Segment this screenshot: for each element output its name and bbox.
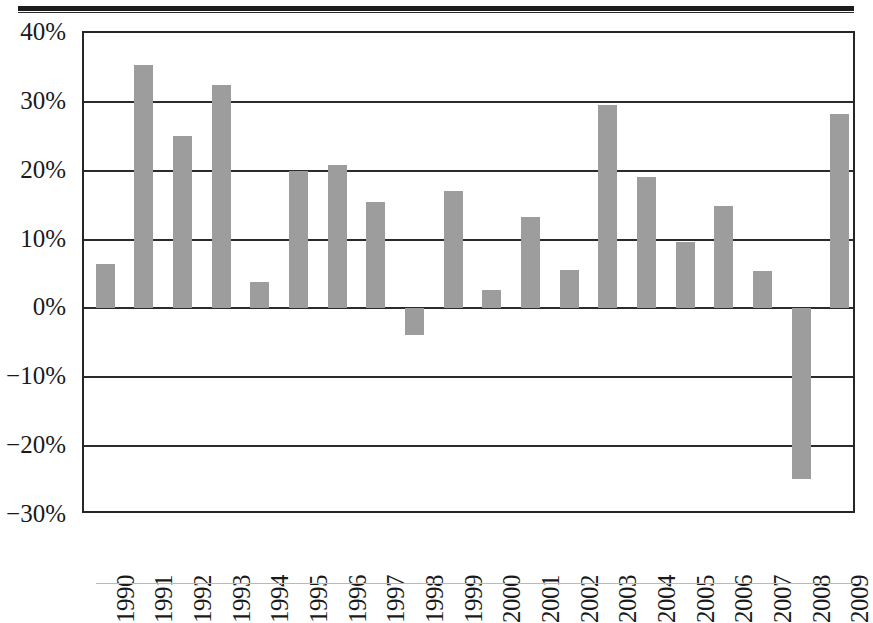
x-axis-tick-label: 1998: [422, 589, 447, 623]
bar: [830, 114, 849, 309]
bar: [637, 177, 656, 309]
bar: [560, 270, 579, 309]
x-axis-tick-label: 2007: [770, 589, 795, 623]
bar: [96, 264, 115, 308]
x-axis-tick-label: 2008: [809, 589, 834, 623]
x-axis-tick-label: 1993: [229, 589, 254, 623]
bar: [521, 217, 540, 309]
bar: [405, 308, 424, 334]
x-axis-tick-label: 2004: [654, 589, 679, 623]
x-axis-tick-label: 2009: [847, 589, 872, 623]
bar-series: [84, 33, 853, 511]
x-axis-tick-label: 1999: [461, 589, 486, 623]
x-axis-tick-label: 2003: [615, 589, 640, 623]
bar: [792, 308, 811, 479]
bar: [366, 202, 385, 309]
y-axis-tick-labels: 40%30%20%10%0%−10%−20%−30%: [0, 31, 74, 513]
bar: [134, 65, 153, 308]
x-axis-tick-label: 2005: [693, 589, 718, 623]
y-axis-tick-label: 40%: [20, 19, 66, 44]
x-axis-tick-label: 2002: [577, 589, 602, 623]
bar: [714, 206, 733, 309]
x-axis-tick-label: 2006: [731, 589, 756, 623]
bar: [289, 171, 308, 309]
bar: [212, 85, 231, 309]
bar: [753, 271, 772, 308]
x-axis-tick-label: 2000: [499, 589, 524, 623]
bar: [328, 165, 347, 309]
x-axis-tick-label: 1996: [345, 589, 370, 623]
page-top-rule: [18, 6, 854, 11]
y-axis-tick-label: 30%: [20, 87, 66, 112]
bar: [444, 191, 463, 308]
y-axis-tick-label: 0%: [33, 294, 66, 319]
y-axis-tick-label: 20%: [20, 156, 66, 181]
y-axis-tick-label: −10%: [6, 363, 66, 388]
x-axis-tick-label: 1997: [383, 589, 408, 623]
x-axis-tick-label: 1994: [267, 589, 292, 623]
x-axis-tick-label: 2001: [538, 589, 563, 623]
x-axis-tick-label: 1990: [113, 589, 138, 623]
plot-area: [82, 31, 855, 513]
y-axis-tick-label: −20%: [6, 432, 66, 457]
bar: [173, 136, 192, 309]
x-axis-tick-labels: 1990199119921993199419951996199719981999…: [82, 515, 855, 592]
bar: [250, 282, 269, 309]
bar: [482, 290, 501, 309]
page-bottom-rule: [96, 583, 856, 584]
x-axis-tick-label: 1995: [306, 589, 331, 623]
x-axis-tick-label: 1992: [190, 589, 215, 623]
y-axis-tick-label: −30%: [6, 501, 66, 526]
bar: [676, 242, 695, 309]
x-axis-tick-label: 1991: [151, 589, 176, 623]
bar: [598, 105, 617, 309]
page-top-rule-thin: [18, 12, 854, 13]
y-axis-tick-label: 10%: [20, 225, 66, 250]
